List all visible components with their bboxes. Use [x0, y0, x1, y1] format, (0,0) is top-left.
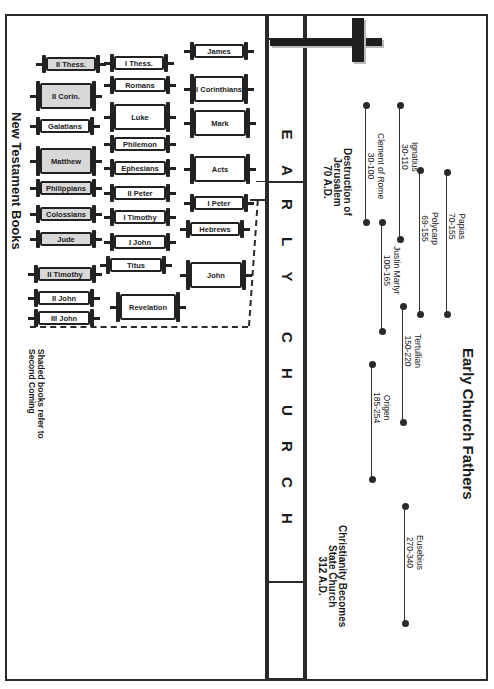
scroll-rod-right	[92, 207, 102, 221]
scroll-rod-right	[166, 137, 176, 151]
father-name: Polycarp	[430, 212, 440, 245]
book-label: Philemon	[114, 137, 166, 151]
lifespan-dot	[402, 503, 409, 510]
scroll-rod-right	[162, 258, 172, 272]
book-label: Titus	[110, 258, 162, 272]
lifespan-dot	[363, 102, 370, 109]
book-label: I Timothy	[114, 210, 166, 224]
book-scroll: I Corinthians	[184, 76, 254, 102]
book-scroll: II Corin.	[30, 83, 102, 109]
book-scroll: II Thess.	[36, 57, 106, 71]
scroll-rod-left	[30, 207, 40, 221]
scroll-rod-left	[104, 161, 114, 175]
event-line: 312 A.D.	[317, 525, 327, 627]
scroll-rod-right	[90, 119, 100, 133]
book-scroll: John	[180, 262, 252, 288]
book-label: Jude	[40, 232, 92, 246]
band-letter: U	[279, 403, 296, 419]
father-dates: 100-165	[382, 246, 392, 295]
scroll-rod-left	[184, 44, 194, 58]
book-label: Colossians	[40, 207, 92, 221]
scroll-rod-right	[90, 311, 100, 325]
lifespan-line	[446, 172, 447, 314]
father-dates: 30-100	[366, 133, 376, 199]
scroll-rod-left	[184, 76, 194, 102]
scroll-rod-left	[30, 181, 40, 195]
book-scroll: Luke	[104, 104, 176, 130]
scroll-rod-left	[30, 83, 40, 109]
lifespan-dot	[397, 102, 404, 109]
book-label: John	[190, 262, 242, 288]
church-father-label: Justin Martyr100-165	[382, 246, 402, 295]
church-father-label: Papias70-155	[447, 213, 467, 239]
scroll-rod-right	[244, 44, 254, 58]
scroll-rod-left	[100, 258, 110, 272]
book-scroll: II Timothy	[28, 267, 102, 281]
dashed-bracket-bottom	[30, 326, 248, 328]
lifespan-dot	[444, 311, 451, 318]
lifespan-dot	[363, 219, 370, 226]
scroll-rod-left	[104, 235, 114, 249]
shaded-note-line1: Shaded books refer to	[36, 349, 45, 439]
scroll-rod-right	[166, 104, 176, 130]
scroll-rod-left	[30, 232, 40, 246]
lifespan-dot	[417, 311, 424, 318]
scroll-rod-left	[180, 262, 190, 288]
father-dates: 70-155	[447, 213, 457, 239]
band-divider-a	[266, 181, 306, 183]
band-letter: H	[279, 366, 296, 382]
book-label: I John	[114, 235, 166, 249]
father-name: Eusebius	[415, 535, 425, 570]
book-scroll: Romans	[104, 78, 176, 92]
book-scroll: II John	[28, 291, 100, 305]
band-letter: A	[279, 163, 296, 179]
book-label: II Corin.	[40, 83, 92, 109]
band-letter: Y	[279, 269, 296, 285]
scroll-rod-left	[180, 222, 190, 236]
scroll-rod-right	[164, 56, 174, 70]
church-father-label: Clement of Rome30-100	[366, 133, 386, 199]
father-name: Clement of Rome	[376, 133, 386, 199]
scroll-rod-right	[166, 161, 176, 175]
book-label: James	[194, 44, 244, 58]
book-label: Philippians	[40, 181, 92, 195]
scroll-rod-right	[166, 78, 176, 92]
lifespan-dot	[444, 169, 451, 176]
church-father-label: Polycarp69-155	[420, 212, 440, 245]
event-line: Destruction of	[342, 148, 352, 216]
book-scroll: Mark	[184, 110, 256, 136]
book-label: I Thess.	[114, 56, 164, 70]
father-name: Justin Martyr	[392, 246, 402, 295]
book-label: Matthew	[40, 148, 92, 174]
scroll-rod-right	[166, 210, 176, 224]
book-label: Revelation	[120, 294, 176, 320]
book-scroll: Philemon	[104, 137, 176, 151]
scroll-rod-left	[104, 186, 114, 200]
scroll-rod-right	[166, 235, 176, 249]
shaded-note: Shaded books refer to Second Coming	[27, 349, 45, 439]
scroll-rod-right	[246, 156, 256, 182]
father-dates: 185-254	[372, 392, 382, 423]
scroll-rod-right	[92, 83, 102, 109]
lifespan-line	[399, 105, 400, 239]
book-scroll: II Peter	[104, 186, 176, 200]
scroll-rod-left	[110, 294, 120, 320]
father-name: Tertullian	[413, 334, 423, 368]
book-scroll: Ephesians	[104, 161, 176, 175]
church-father-label: Tertullian150-220	[403, 334, 423, 368]
scroll-rod-left	[184, 196, 194, 210]
lifespan-dot	[369, 361, 376, 368]
church-father-label: Eusebius270-340	[405, 535, 425, 570]
scroll-rod-left	[184, 110, 194, 136]
book-scroll: Hebrews	[180, 222, 250, 236]
event-destruction-jerusalem: Destruction of Jerusalem 70 A.D.	[322, 148, 352, 216]
book-label: II Peter	[114, 186, 166, 200]
scroll-rod-left	[36, 57, 46, 71]
scroll-rod-left	[28, 291, 38, 305]
lifespan-dot	[417, 167, 424, 174]
scroll-rod-right	[90, 291, 100, 305]
book-scroll: Colossians	[30, 207, 102, 221]
band-divider-bottom	[266, 581, 306, 583]
new-testament-title: New Testament Books	[9, 112, 24, 250]
event-line: 70 A.D.	[322, 148, 332, 216]
